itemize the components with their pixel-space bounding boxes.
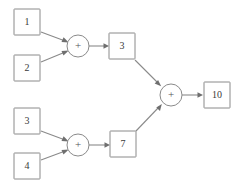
node-operator-plus-final[interactable]: + bbox=[160, 84, 182, 106]
node-input-2[interactable]: 2 bbox=[14, 55, 40, 81]
edge-sum2-to-op3 bbox=[136, 104, 162, 131]
edge-in2-to-op1 bbox=[41, 51, 69, 62]
node-input-3[interactable]: 3 bbox=[14, 108, 40, 134]
edge-op1-to-sum1 bbox=[89, 43, 109, 49]
diagram-canvas: 1 2 + 3 3 4 bbox=[0, 0, 245, 191]
edge-sum1-to-op3 bbox=[135, 60, 161, 86]
edge-op2-to-sum2 bbox=[89, 142, 110, 148]
node-input-1[interactable]: 1 bbox=[14, 9, 40, 35]
node-sum-bottom[interactable]: 7 bbox=[110, 131, 136, 157]
edge-op3-to-out bbox=[182, 92, 203, 98]
edge-in3-to-op2 bbox=[41, 131, 69, 141]
edge-in1-to-op1 bbox=[41, 32, 69, 42]
node-input-4[interactable]: 4 bbox=[14, 153, 40, 179]
node-operator-plus-bottom[interactable]: + bbox=[67, 134, 89, 156]
node-sum-top[interactable]: 3 bbox=[109, 33, 135, 59]
node-operator-plus-top[interactable]: + bbox=[67, 35, 89, 57]
edge-in4-to-op2 bbox=[41, 150, 69, 160]
node-output-total[interactable]: 10 bbox=[204, 82, 230, 108]
computation-graph: 1 2 + 3 3 4 bbox=[0, 0, 245, 191]
